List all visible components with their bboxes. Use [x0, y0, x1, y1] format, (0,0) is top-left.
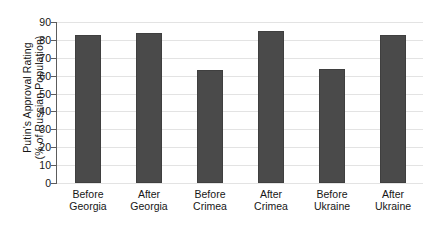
y-axis-tick-label: 70 [15, 53, 51, 64]
x-axis-tick-label-line: After [354, 188, 430, 200]
y-axis-tick-label: 40 [15, 106, 51, 117]
x-axis-tick-label: AfterUkraine [354, 188, 430, 213]
gridline [57, 94, 423, 95]
y-axis-tick-labels: 0102030405060708090 [8, 0, 51, 236]
bar [319, 69, 345, 183]
gridline [57, 40, 423, 41]
y-axis-tick-label: 10 [15, 160, 51, 171]
y-axis-tick-label: 90 [15, 17, 51, 28]
y-axis-tick-label: 0 [15, 178, 51, 189]
gridline [57, 165, 423, 166]
x-axis-tick-labels: BeforeGeorgiaAfterGeorgiaBeforeCrimeaAft… [57, 188, 423, 234]
x-axis-tick-label-line: Ukraine [354, 200, 430, 212]
gridline [57, 22, 423, 23]
gridline [57, 111, 423, 112]
bar [258, 31, 284, 183]
bar [380, 35, 406, 183]
bar [75, 35, 101, 183]
gridline [57, 58, 423, 59]
y-axis-tick-label: 50 [15, 89, 51, 100]
bar-chart-figure: Putin's Approval Rating (% of Russian Po… [0, 0, 430, 236]
y-axis-tick-label: 60 [15, 71, 51, 82]
plot-area [57, 22, 423, 183]
bar [136, 33, 162, 183]
y-axis-tick-label: 80 [15, 35, 51, 46]
gridline [57, 129, 423, 130]
gridline [57, 183, 423, 184]
bar [197, 70, 223, 183]
y-axis-tick-label: 30 [15, 124, 51, 135]
gridline [57, 76, 423, 77]
y-axis-tick-label: 20 [15, 142, 51, 153]
gridline [57, 147, 423, 148]
